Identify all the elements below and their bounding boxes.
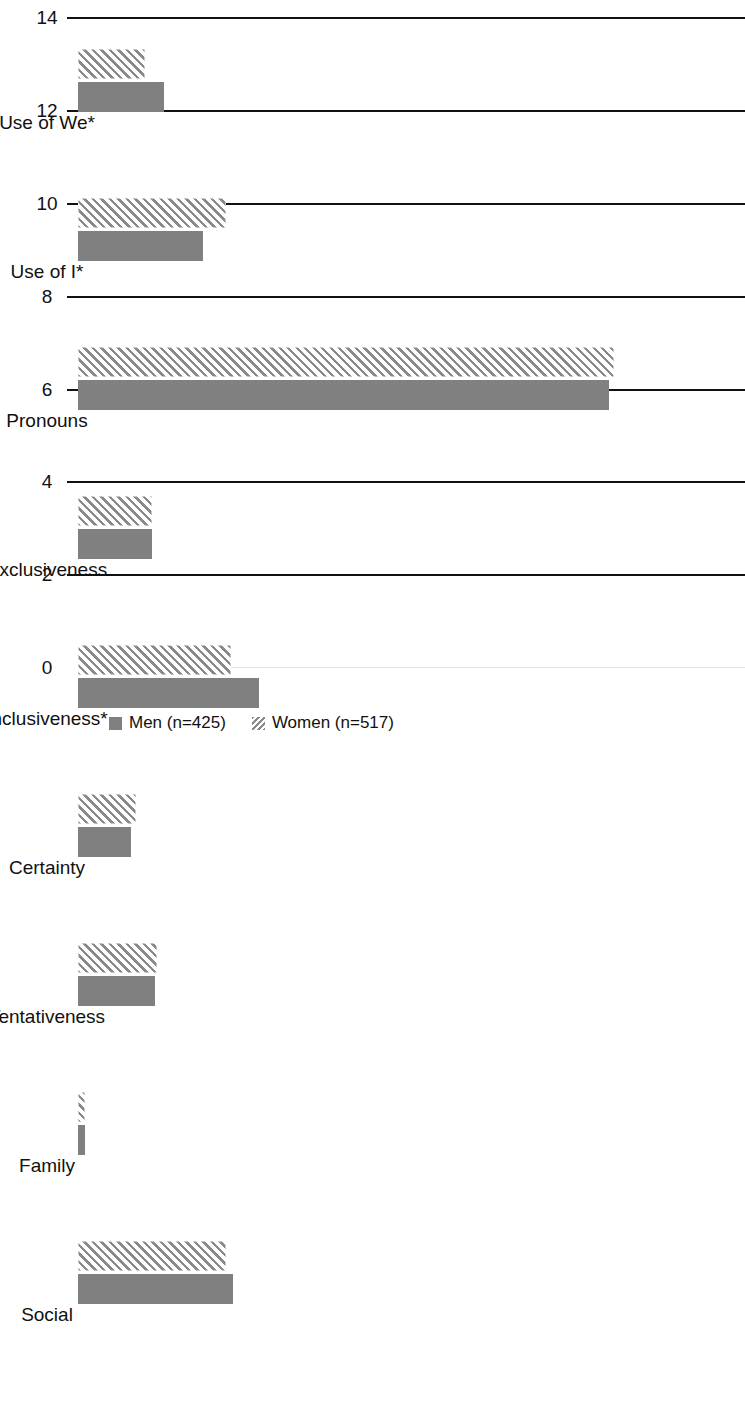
bar <box>78 678 259 708</box>
chart-legend: Men (n=425)Women (n=517) <box>109 713 394 733</box>
axis-tick-label-4: 4 <box>42 471 53 493</box>
category-label: Pronouns <box>6 410 87 432</box>
bar <box>78 645 231 675</box>
category-label: Use of I* <box>11 261 84 283</box>
men-swatch <box>109 717 122 730</box>
bar <box>78 794 136 824</box>
category-label: Certainty <box>9 857 85 879</box>
axis-tick-6 <box>67 389 78 391</box>
bar <box>78 380 609 410</box>
category-label: Social <box>21 1304 73 1326</box>
gridline-14 <box>78 17 745 19</box>
bar <box>78 529 152 559</box>
legend-item: Women (n=517) <box>252 713 394 733</box>
bar <box>78 1241 226 1271</box>
bar <box>78 1125 85 1155</box>
bar <box>78 49 145 79</box>
bar <box>78 976 155 1006</box>
legend-label: Men (n=425) <box>129 713 226 733</box>
women-swatch <box>252 717 265 730</box>
bar <box>78 496 152 526</box>
bar <box>78 347 614 377</box>
axis-tick-label-6: 6 <box>42 379 53 401</box>
axis-tick-label-10: 10 <box>36 193 57 215</box>
axis-tick-10 <box>67 203 78 205</box>
chart-figure: Men (n=425)Women (n=517) 14121086420Soci… <box>0 0 745 1401</box>
legend-item: Men (n=425) <box>109 713 226 733</box>
category-label: Inclusiveness* <box>0 708 108 730</box>
bar <box>78 827 131 857</box>
plot-area <box>78 0 745 1401</box>
axis-tick-label-0: 0 <box>42 657 53 679</box>
axis-tick-14 <box>67 17 78 19</box>
bar <box>78 231 203 261</box>
bar <box>78 1274 233 1304</box>
legend-label: Women (n=517) <box>272 713 394 733</box>
gridline-2 <box>78 574 745 576</box>
axis-tick-label-14: 14 <box>36 7 57 29</box>
category-label: Exclusiveness <box>0 559 107 581</box>
axis-tick-8 <box>67 296 78 298</box>
category-label: Tentativeness <box>0 1006 105 1028</box>
bar <box>78 198 226 228</box>
gridline-4 <box>78 481 745 483</box>
bar-chart: Men (n=425)Women (n=517) 14121086420Soci… <box>0 0 745 1401</box>
category-label: Use of We* <box>0 112 95 134</box>
category-label: Family <box>19 1155 75 1177</box>
bar <box>78 82 164 112</box>
gridline-12 <box>78 110 745 112</box>
bar <box>78 1092 85 1122</box>
bar <box>78 943 157 973</box>
axis-tick-4 <box>67 481 78 483</box>
axis-tick-label-8: 8 <box>42 286 53 308</box>
gridline-8 <box>78 296 745 298</box>
